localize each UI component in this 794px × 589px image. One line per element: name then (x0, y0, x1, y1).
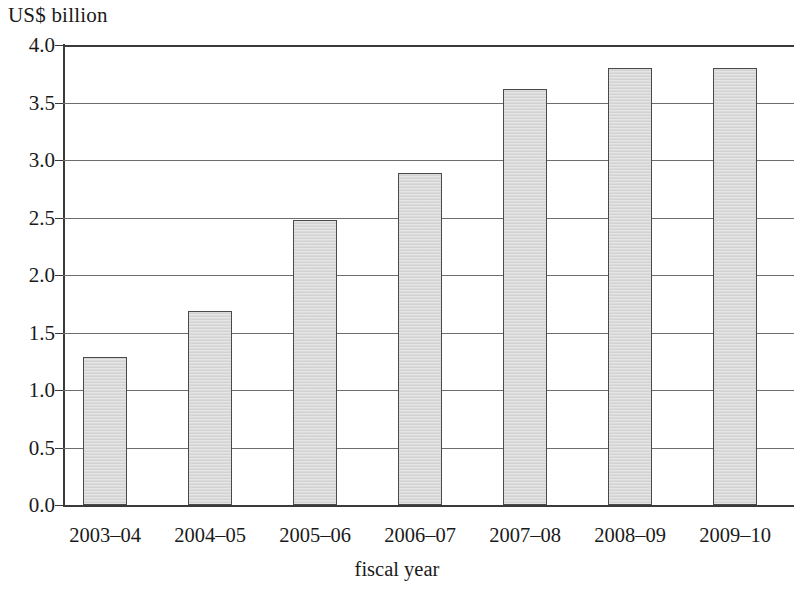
y-axis-tick (55, 218, 63, 219)
y-axis-tick (55, 505, 63, 506)
bar (503, 89, 547, 505)
bar (83, 357, 127, 505)
x-axis-tick-label: 2009–10 (683, 522, 788, 548)
bar (608, 68, 652, 505)
x-axis-title: fiscal year (0, 556, 794, 582)
y-axis-tick (55, 160, 63, 161)
y-axis-tick (55, 275, 63, 276)
x-axis-tick-label: 2007–08 (473, 522, 578, 548)
gridline (63, 45, 794, 47)
x-axis-tick-label: 2008–09 (578, 522, 683, 548)
x-axis-tick-labels: 2003–042004–052005–062006–072007–082008–… (63, 522, 794, 552)
gridline (63, 103, 794, 104)
y-axis-tick-label: 0.0 (3, 495, 55, 516)
gridline (63, 505, 794, 507)
bar (713, 68, 757, 505)
y-axis-tick-labels: 4.03.53.02.52.01.51.00.50.0 (0, 45, 55, 505)
y-axis-tick (55, 390, 63, 391)
y-axis-tick-label: 4.0 (3, 35, 55, 56)
y-axis-unit-label: US$ billion (8, 2, 108, 28)
y-axis-tick-label: 2.0 (3, 265, 55, 286)
x-axis-tick-label: 2003–04 (53, 522, 158, 548)
plot-area (63, 45, 794, 505)
y-axis-tick-label: 0.5 (3, 438, 55, 459)
bar (398, 173, 442, 505)
bar (188, 311, 232, 505)
x-axis-tick-label: 2005–06 (263, 522, 368, 548)
x-axis-tick-label: 2006–07 (368, 522, 473, 548)
gridline (63, 160, 794, 161)
y-axis-tick-label: 1.5 (3, 323, 55, 344)
x-axis-tick-label: 2004–05 (158, 522, 263, 548)
y-axis-tick (55, 45, 63, 46)
y-axis-tick-label: 3.0 (3, 150, 55, 171)
bar-chart: US$ billion 4.03.53.02.52.01.51.00.50.0 … (0, 0, 794, 589)
y-axis-tick (55, 448, 63, 449)
y-axis-tick (55, 103, 63, 104)
bar (293, 220, 337, 505)
y-axis-tick-label: 3.5 (3, 93, 55, 114)
y-axis-tick-label: 2.5 (3, 208, 55, 229)
y-axis-tick-label: 1.0 (3, 380, 55, 401)
y-axis-tick (55, 333, 63, 334)
